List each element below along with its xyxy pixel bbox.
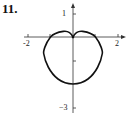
x-axis-arrow-icon (121, 35, 126, 39)
y-axis-arrow-icon (71, 3, 75, 8)
y-tick-label-1: 1 (62, 10, 66, 18)
y-tick-label-neg3: −3 (59, 104, 68, 112)
x-tick-label-2: 2 (115, 40, 119, 48)
x-tick-label-neg2: -2 (23, 40, 30, 48)
